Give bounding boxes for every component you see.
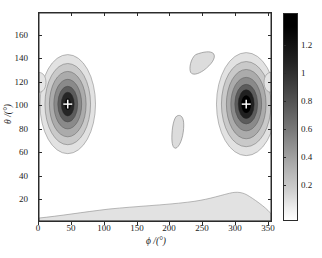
y-tick-right-40 bbox=[268, 176, 272, 177]
y-tick-60 bbox=[38, 152, 42, 153]
y-tick-80 bbox=[38, 129, 42, 130]
x-tick-label-250: 250 bbox=[187, 224, 217, 233]
x-tick-label-100: 100 bbox=[89, 224, 119, 233]
colorbar-label-0_6: 0.6 bbox=[301, 125, 322, 134]
x-tick-top-0 bbox=[38, 12, 39, 16]
colorbar-label-0_4: 0.4 bbox=[301, 153, 322, 162]
y-tick-label-40: 40 bbox=[0, 172, 28, 181]
x-tick-top-350 bbox=[268, 12, 269, 16]
colorbar-tick-1 bbox=[283, 73, 286, 74]
y-tick-right-20 bbox=[268, 199, 272, 200]
y-axis-title: θ /(°) bbox=[3, 84, 13, 144]
x-tick-label-300: 300 bbox=[220, 224, 250, 233]
x-axis-title: ϕ /(°) bbox=[116, 236, 196, 246]
y-tick-140 bbox=[38, 58, 42, 59]
contour-figure: 160 140 120 100 80 60 40 20 θ /(°) 0 50 … bbox=[0, 0, 322, 258]
y-tick-20 bbox=[38, 199, 42, 200]
colorbar-tick-0_8 bbox=[283, 101, 286, 102]
x-tick-top-150 bbox=[137, 12, 138, 16]
x-tick-label-0: 0 bbox=[23, 224, 53, 233]
colorbar-tick-0_6 bbox=[283, 129, 286, 130]
y-tick-120 bbox=[38, 82, 42, 83]
colorbar-tick-0_4 bbox=[283, 157, 286, 158]
contour-field bbox=[39, 13, 271, 221]
x-tick-label-150: 150 bbox=[122, 224, 152, 233]
y-tick-40 bbox=[38, 176, 42, 177]
y-tick-label-160: 160 bbox=[0, 31, 28, 40]
y-tick-right-120 bbox=[268, 82, 272, 83]
x-tick-top-250 bbox=[202, 12, 203, 16]
x-tick-top-100 bbox=[104, 12, 105, 16]
colorbar-label-0_8: 0.8 bbox=[301, 97, 322, 106]
x-tick-label-200: 200 bbox=[154, 224, 184, 233]
colorbar-tick-1_2 bbox=[283, 45, 286, 46]
y-tick-right-160 bbox=[268, 35, 272, 36]
y-tick-label-60: 60 bbox=[0, 148, 28, 157]
x-tick-top-50 bbox=[71, 12, 72, 16]
y-tick-160 bbox=[38, 35, 42, 36]
y-tick-right-80 bbox=[268, 129, 272, 130]
colorbar-label-0_2: 0.2 bbox=[301, 181, 322, 190]
x-tick-label-350: 350 bbox=[253, 224, 283, 233]
y-tick-100 bbox=[38, 105, 42, 106]
y-tick-label-140: 140 bbox=[0, 54, 28, 63]
colorbar-tick-0_2 bbox=[283, 185, 286, 186]
plot-area bbox=[38, 12, 272, 222]
colorbar-label-1: 1 bbox=[301, 69, 322, 78]
x-tick-top-200 bbox=[169, 12, 170, 16]
x-tick-top-300 bbox=[235, 12, 236, 16]
y-tick-label-20: 20 bbox=[0, 195, 28, 204]
x-tick-label-50: 50 bbox=[56, 224, 86, 233]
y-tick-right-100 bbox=[268, 105, 272, 106]
y-tick-right-140 bbox=[268, 58, 272, 59]
y-tick-right-60 bbox=[268, 152, 272, 153]
colorbar-label-1_2: 1.2 bbox=[301, 41, 322, 50]
